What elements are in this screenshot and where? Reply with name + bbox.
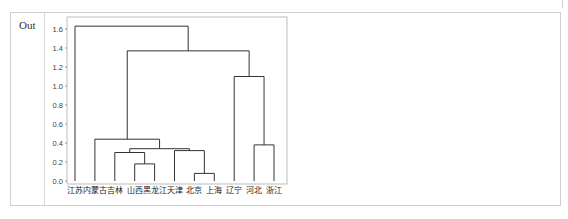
leaf-label: 河北 bbox=[246, 185, 262, 195]
dendrogram-link bbox=[254, 145, 274, 181]
dendrogram-link bbox=[75, 26, 188, 181]
y-tick-label: 1.2 bbox=[53, 63, 63, 72]
dendrogram-link bbox=[194, 173, 214, 181]
y-tick-label: 0.6 bbox=[53, 120, 63, 129]
leaf-label: 天津 bbox=[167, 185, 183, 195]
leaf-label: 江苏 bbox=[67, 185, 83, 195]
y-tick-label: 0.2 bbox=[53, 158, 63, 167]
leaf-label: 黑龙江 bbox=[143, 185, 167, 195]
y-tick-label: 1.0 bbox=[53, 82, 63, 91]
y-axis: 0.00.20.40.60.81.01.21.41.6 bbox=[53, 25, 67, 186]
leaf-label: 吉林 bbox=[107, 185, 123, 195]
leaf-label: 辽宁 bbox=[226, 185, 242, 195]
leaf-label: 浙江 bbox=[266, 185, 282, 195]
leaf-label: 内蒙古 bbox=[83, 185, 107, 195]
leaf-label: 山西 bbox=[127, 185, 143, 195]
dendrogram-links bbox=[75, 26, 274, 181]
leaf-label: 北京 bbox=[186, 185, 202, 195]
dendrogram-link bbox=[127, 51, 249, 139]
y-tick-label: 1.4 bbox=[53, 44, 63, 53]
leaf-label: 上海 bbox=[206, 185, 222, 195]
leaf-labels: 江苏内蒙古吉林山西黑龙江天津北京上海辽宁河北浙江 bbox=[67, 185, 282, 195]
dendrogram-link bbox=[135, 164, 155, 181]
y-tick-label: 0.4 bbox=[53, 139, 63, 148]
dendrogram-link bbox=[234, 77, 264, 182]
dendrogram-link bbox=[175, 151, 205, 181]
y-tick-label: 1.6 bbox=[53, 25, 63, 34]
dendrogram-link bbox=[115, 153, 145, 182]
dendrogram-chart: 0.00.20.40.60.81.01.21.41.6 江苏内蒙古吉林山西黑龙江… bbox=[0, 0, 568, 219]
y-tick-label: 0.0 bbox=[53, 177, 63, 186]
dendrogram-link bbox=[95, 139, 160, 181]
y-tick-label: 0.8 bbox=[53, 101, 63, 110]
